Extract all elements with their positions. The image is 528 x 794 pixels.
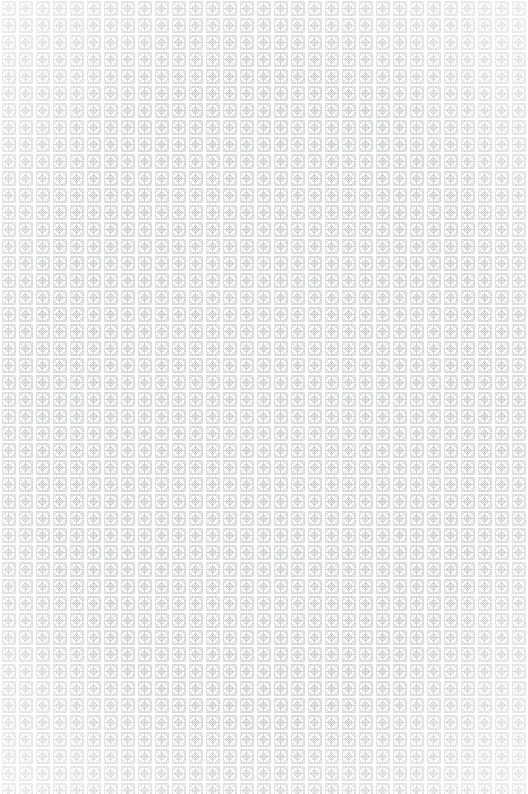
- horizontal-gutter-layer: [0, 0, 528, 794]
- pattern-texture-image: [0, 0, 528, 794]
- paper-mottle-layer: [0, 0, 528, 794]
- vertical-gutter-layer: [0, 0, 528, 794]
- paper-ground-layer: [0, 0, 528, 794]
- ornamental-tile-layer: [0, 0, 528, 794]
- global-fade-layer: [0, 0, 528, 794]
- edge-wash-layer: [0, 0, 528, 794]
